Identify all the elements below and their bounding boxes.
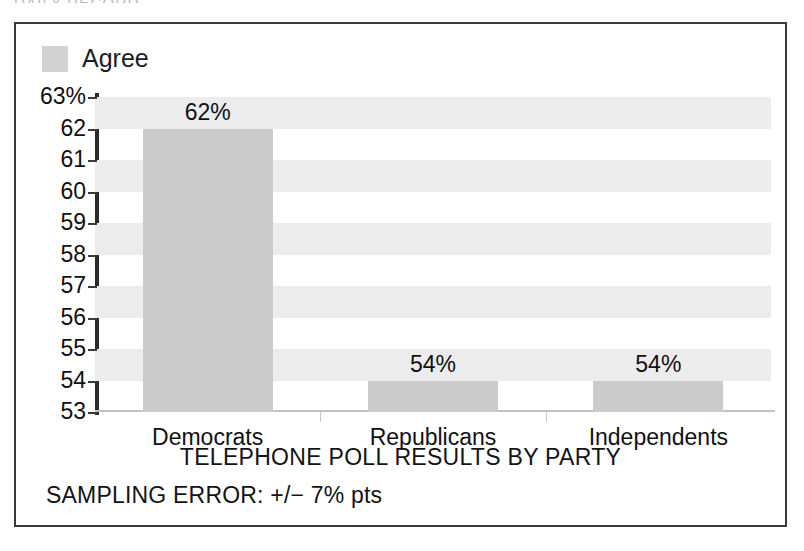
y-axis-tick <box>88 349 97 351</box>
y-axis-tick-label: 63% <box>24 85 86 108</box>
x-axis-category-label: Democrats <box>98 424 318 451</box>
y-axis-tick <box>88 412 97 414</box>
x-axis-category-tick <box>320 412 321 422</box>
y-axis-tick <box>88 286 97 288</box>
y-axis-labels: 63%62616059585756555453 <box>16 24 86 444</box>
y-axis-tick-label: 60 <box>24 180 86 203</box>
bar-value-label: 54% <box>598 351 718 378</box>
y-axis-tick-label: 57 <box>24 274 86 297</box>
y-axis-tick <box>88 223 97 225</box>
y-axis-tick-label: 54 <box>24 369 86 392</box>
y-axis-tick-label: 61 <box>24 148 86 171</box>
y-axis-tick <box>88 192 97 194</box>
chart-frame: Agree 63%62616059585756555453 TELEPHONE … <box>14 22 787 527</box>
bar-value-label: 54% <box>373 351 493 378</box>
y-axis-tick-label: 53 <box>24 400 86 423</box>
x-axis-category-label: Republicans <box>323 424 543 451</box>
y-axis-tick <box>88 97 97 99</box>
y-axis-tick-label: 58 <box>24 243 86 266</box>
y-axis-tick <box>88 318 97 320</box>
bar-independents[interactable] <box>593 381 723 413</box>
bar-democrats[interactable] <box>143 129 273 413</box>
clipped-page-header: DAILY RECORD <box>14 0 314 3</box>
y-axis-tick <box>88 381 97 383</box>
y-axis-tick <box>88 160 97 162</box>
bar-value-label: 62% <box>148 99 268 126</box>
y-axis-tick-label: 59 <box>24 211 86 234</box>
y-axis-tick-label: 55 <box>24 337 86 360</box>
y-axis-tick <box>88 129 97 131</box>
x-axis-category-label: Independents <box>548 424 768 451</box>
x-axis-category-tick <box>546 412 547 422</box>
legend-label-agree: Agree <box>82 44 149 73</box>
y-axis-tick-label: 56 <box>24 306 86 329</box>
y-axis-tick <box>88 255 97 257</box>
sampling-error-note: SAMPLING ERROR: +/− 7% pts <box>46 482 382 509</box>
y-axis-tick-label: 62 <box>24 117 86 140</box>
bar-republicans[interactable] <box>368 381 498 413</box>
